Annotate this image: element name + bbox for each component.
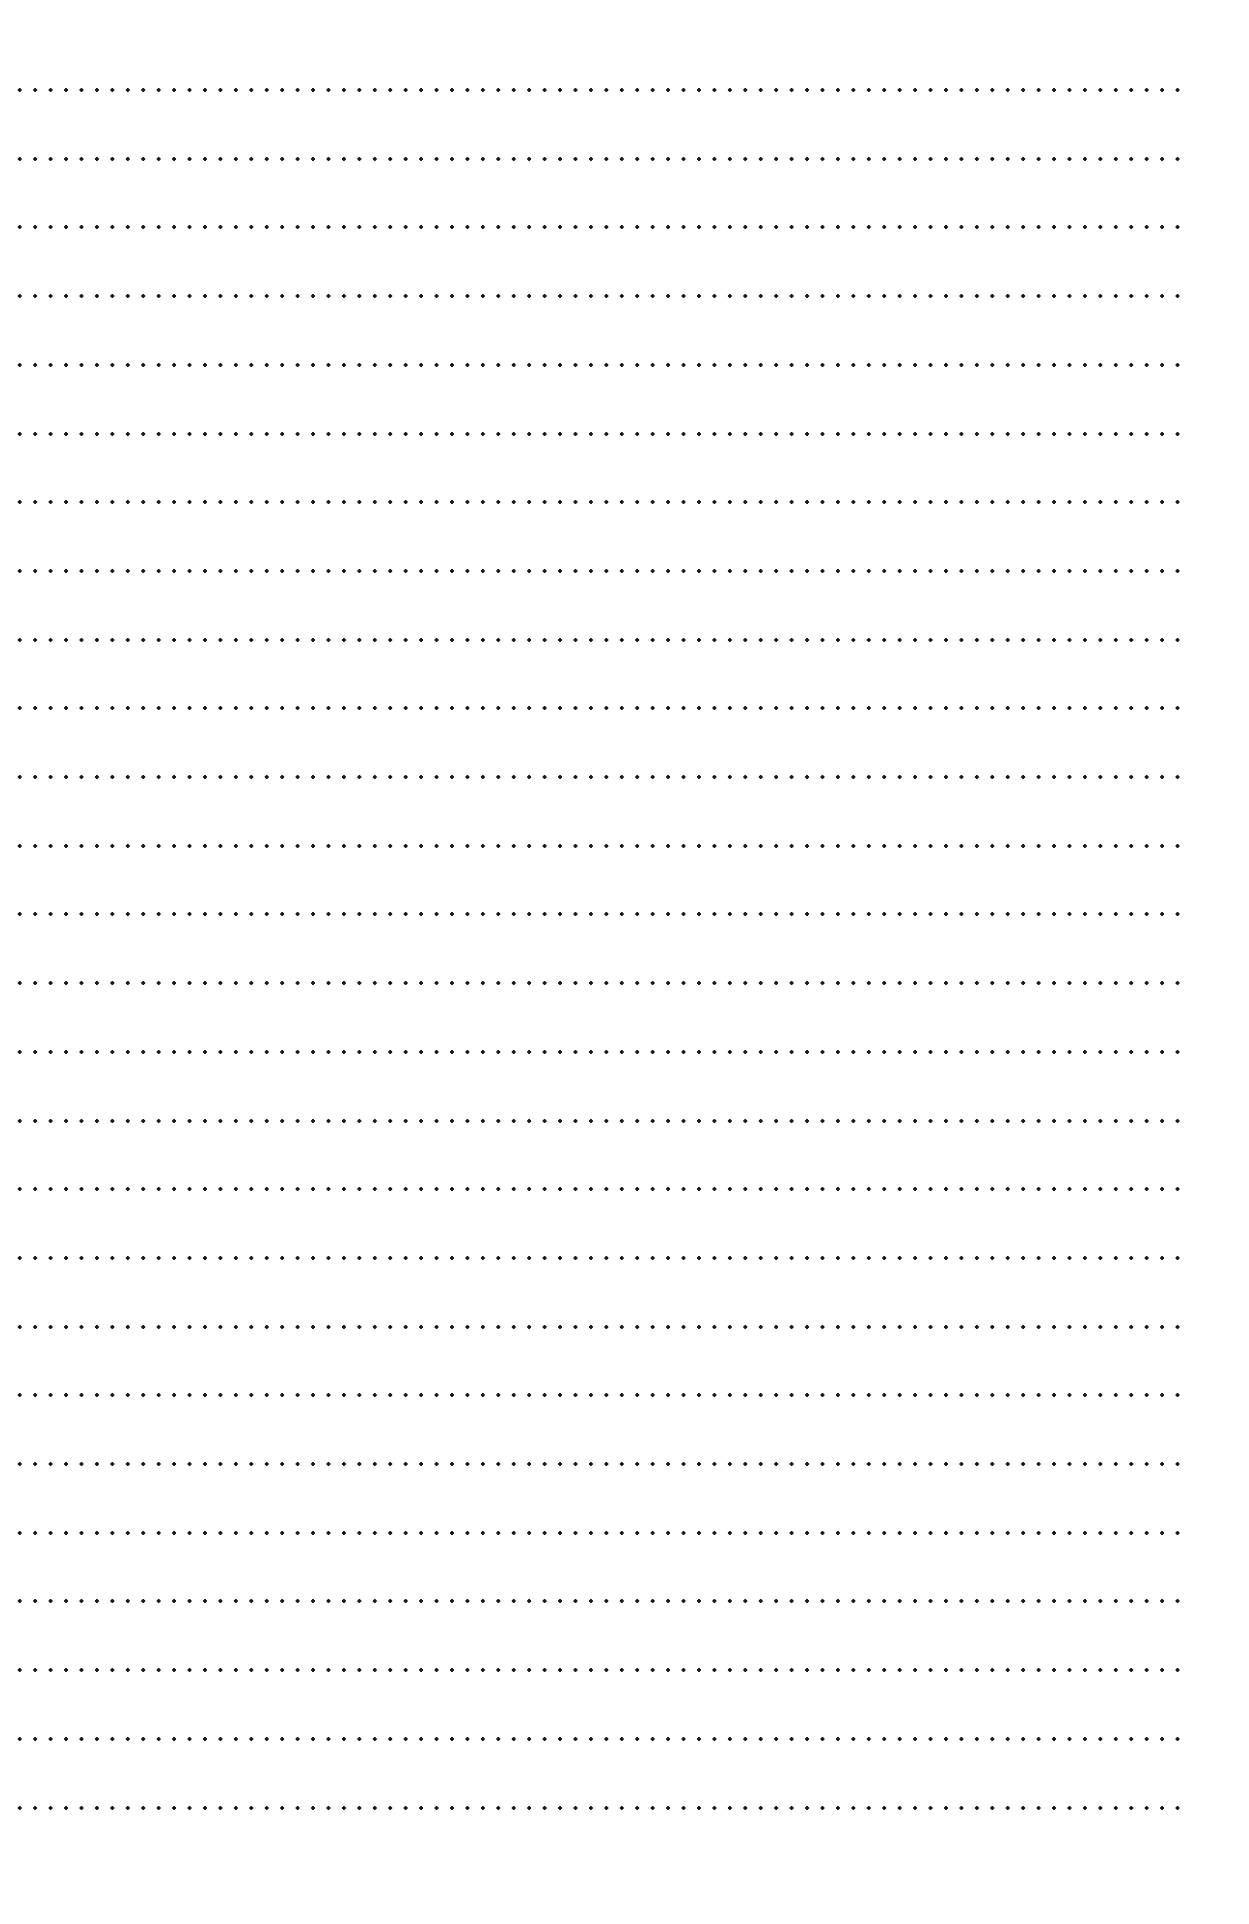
dotted-writing-line	[12, 294, 1180, 298]
dotted-writing-line	[12, 88, 1180, 92]
dotted-writing-line	[12, 981, 1180, 985]
dotted-writing-line	[12, 1737, 1180, 1741]
ruled-sheet	[0, 0, 1249, 1924]
dotted-writing-line	[12, 1806, 1180, 1810]
dotted-writing-line	[12, 363, 1180, 367]
dotted-writing-line	[12, 1187, 1180, 1191]
dotted-writing-line	[12, 1599, 1180, 1603]
dotted-writing-line	[12, 1256, 1180, 1260]
dotted-writing-line	[12, 432, 1180, 436]
dotted-writing-line	[12, 1119, 1180, 1123]
dotted-writing-line	[12, 638, 1180, 642]
dotted-writing-line	[12, 1531, 1180, 1535]
dotted-writing-line	[12, 912, 1180, 916]
dotted-writing-line	[12, 500, 1180, 504]
dotted-writing-line	[12, 1462, 1180, 1466]
dotted-writing-line	[12, 706, 1180, 710]
dotted-writing-line	[12, 1325, 1180, 1329]
dotted-writing-line	[12, 1050, 1180, 1054]
dotted-writing-line	[12, 157, 1180, 161]
dotted-writing-line	[12, 1393, 1180, 1397]
dotted-writing-line	[12, 775, 1180, 779]
dotted-writing-line	[12, 844, 1180, 848]
dotted-writing-line	[12, 1668, 1180, 1672]
dotted-writing-line	[12, 225, 1180, 229]
dotted-writing-line	[12, 569, 1180, 573]
